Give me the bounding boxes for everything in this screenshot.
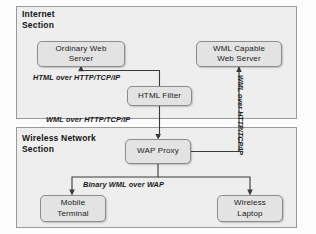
node-ordinary-web-server[interactable]: Ordinary Web Server: [37, 41, 125, 67]
panel-title-internet-section: Internet Section: [22, 9, 55, 30]
wap-architecture-diagram: Internet Section Wireless Network Sectio…: [0, 0, 316, 234]
panel-title-wireless-network-section: Wireless Network Section: [22, 133, 96, 154]
node-wml-capable-web-server[interactable]: WML Capable Web Server: [196, 41, 282, 67]
edge-label-wml-over-http-vertical: WML over HTTP/TCP/IP: [237, 75, 244, 155]
node-html-filter[interactable]: HTML Filter: [127, 86, 192, 106]
node-wireless-laptop[interactable]: Wireless Laptop: [217, 195, 283, 222]
edge-label-binary-wml-over-wap: Binary WML over WAP: [83, 180, 164, 189]
edge-label-html-over-http: HTML over HTTP/TCP/IP: [33, 73, 120, 82]
node-wap-proxy[interactable]: WAP Proxy: [125, 139, 191, 164]
node-mobile-terminal[interactable]: Mobile Terminal: [40, 195, 106, 222]
edge-label-wml-over-http: WML over HTTP/TCP/IP: [46, 115, 130, 124]
